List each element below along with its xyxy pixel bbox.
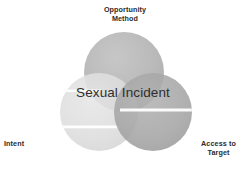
label-access-to-target: Access to Target <box>192 140 245 157</box>
label-intent: Intent <box>4 140 52 149</box>
venn-diagram: Opportunity Method Intent Access to Targ… <box>0 0 247 170</box>
label-opportunity-method: Opportunity Method <box>73 6 177 23</box>
center-label-sexual-incident: Sexual Incident <box>43 85 203 100</box>
access-highlights <box>120 109 192 112</box>
